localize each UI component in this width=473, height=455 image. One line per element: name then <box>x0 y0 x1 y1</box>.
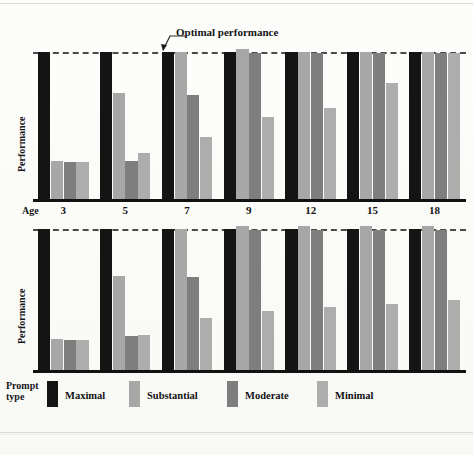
age-tick-3: 3 <box>49 204 77 216</box>
legend-caption-line-1: Prompt <box>6 380 39 391</box>
bar-minimal-age-12 <box>324 307 336 370</box>
bar-moderate-age-7 <box>187 95 199 199</box>
bar-substantial-age-5 <box>113 93 125 199</box>
legend-label-maximal: Maximal <box>65 390 105 401</box>
bar-substantial-age-15 <box>360 52 372 199</box>
bar-substantial-age-7 <box>175 229 187 370</box>
bar-maximal-age-5 <box>100 229 112 370</box>
bar-moderate-age-5 <box>125 161 137 199</box>
bar-maximal-age-5 <box>100 52 112 199</box>
age-tick-7: 7 <box>173 204 201 216</box>
bar-minimal-age-12 <box>324 108 336 199</box>
age-tick-12: 12 <box>297 204 325 216</box>
bar-maximal-age-12 <box>285 229 297 370</box>
legend-caption-line-2: type <box>6 391 39 402</box>
bar-substantial-age-9 <box>236 49 248 199</box>
top-panel-y-axis-label: Performance <box>16 92 28 197</box>
bar-maximal-age-9 <box>224 52 236 199</box>
top-panel-plot-area <box>33 52 466 199</box>
bar-minimal-age-7 <box>200 318 212 370</box>
bar-moderate-age-3 <box>64 162 76 199</box>
legend-swatch-moderate-icon <box>227 381 238 407</box>
bar-substantial-age-12 <box>298 226 310 370</box>
bar-moderate-age-7 <box>187 277 199 370</box>
bar-minimal-age-18 <box>448 53 460 199</box>
legend-label-moderate: Moderate <box>245 390 289 401</box>
bar-minimal-age-7 <box>200 137 212 199</box>
legend-swatch-substantial-icon <box>129 381 140 407</box>
bar-maximal-age-12 <box>285 52 297 199</box>
bar-minimal-age-15 <box>386 83 398 199</box>
legend-swatch-minimal-icon <box>317 381 328 407</box>
bar-minimal-age-18 <box>448 300 460 371</box>
bar-moderate-age-18 <box>435 53 447 199</box>
bar-substantial-age-18 <box>422 226 434 370</box>
bar-maximal-age-7 <box>162 52 174 199</box>
age-axis-caption: Age <box>22 205 39 216</box>
bottom-panel: Performance <box>0 224 473 376</box>
bar-substantial-age-3 <box>51 339 63 370</box>
legend-swatch-maximal-icon <box>47 381 58 407</box>
bar-moderate-age-15 <box>373 53 385 199</box>
legend-label-substantial: Substantial <box>147 390 198 401</box>
bar-substantial-age-3 <box>51 161 63 199</box>
bar-substantial-age-9 <box>236 226 248 370</box>
bar-substantial-age-7 <box>175 52 187 199</box>
bar-moderate-age-12 <box>311 230 323 370</box>
bar-substantial-age-12 <box>298 52 310 199</box>
bar-substantial-age-15 <box>360 226 372 370</box>
bar-minimal-age-3 <box>76 340 88 370</box>
bar-maximal-age-15 <box>347 52 359 199</box>
top-panel-baseline <box>33 199 466 202</box>
figure-grouped-bar-chart: Performance Optimal performance Age 3579… <box>0 0 473 455</box>
bottom-panel-plot-area <box>33 229 466 370</box>
bottom-panel-baseline <box>33 370 466 373</box>
bar-moderate-age-3 <box>64 340 76 370</box>
legend-label-minimal: Minimal <box>335 390 374 401</box>
legend: Prompt type MaximalSubstantialModerateMi… <box>0 378 473 418</box>
age-tick-5: 5 <box>111 204 139 216</box>
bar-moderate-age-9 <box>249 53 261 199</box>
bar-moderate-age-9 <box>249 230 261 370</box>
bar-maximal-age-9 <box>224 229 236 370</box>
bar-maximal-age-3 <box>38 52 50 199</box>
bar-minimal-age-15 <box>386 304 398 370</box>
optimal-performance-annotation: Optimal performance <box>176 26 278 38</box>
bar-maximal-age-7 <box>162 229 174 370</box>
age-tick-18: 18 <box>420 204 448 216</box>
age-axis: Age 3579121518 <box>0 205 473 221</box>
bar-moderate-age-12 <box>311 53 323 199</box>
age-tick-9: 9 <box>235 204 263 216</box>
optimal-performance-leader-line <box>160 33 188 55</box>
bar-minimal-age-9 <box>262 311 274 370</box>
bar-maximal-age-15 <box>347 229 359 370</box>
age-tick-15: 15 <box>359 204 387 216</box>
bar-minimal-age-9 <box>262 117 274 199</box>
bar-maximal-age-18 <box>409 229 421 370</box>
bar-maximal-age-18 <box>409 52 421 199</box>
bar-moderate-age-5 <box>125 336 137 370</box>
bar-minimal-age-3 <box>76 162 88 199</box>
bar-minimal-age-5 <box>138 335 150 370</box>
bar-moderate-age-15 <box>373 230 385 370</box>
bar-maximal-age-3 <box>38 229 50 370</box>
bar-minimal-age-5 <box>138 153 150 199</box>
bar-substantial-age-18 <box>422 52 434 199</box>
bar-substantial-age-5 <box>113 276 125 370</box>
bottom-panel-y-axis-label: Performance <box>16 264 28 369</box>
bar-moderate-age-18 <box>435 230 447 370</box>
legend-caption: Prompt type <box>6 380 39 402</box>
